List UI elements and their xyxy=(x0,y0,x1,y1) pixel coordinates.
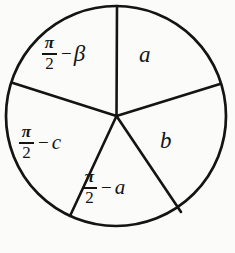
sector-label-pi-over-2-minus-a: π 2 − a xyxy=(82,169,125,206)
fraction-denominator: 2 xyxy=(44,55,55,73)
minus-operator: − xyxy=(97,178,113,197)
sector-label-pi-over-2-minus-c: π 2 − c xyxy=(19,124,61,161)
fraction-denominator: 2 xyxy=(84,189,95,207)
fraction-numerator: π xyxy=(84,169,95,187)
minus-operator: − xyxy=(34,133,50,152)
operand-c: c xyxy=(50,132,61,153)
fraction-numerator: π xyxy=(21,124,32,142)
operand-beta: β xyxy=(73,42,85,65)
fraction-pi-over-2: π 2 xyxy=(42,35,57,72)
fraction-denominator: 2 xyxy=(21,144,32,162)
fraction-pi-over-2: π 2 xyxy=(82,169,97,206)
operand-a: a xyxy=(113,177,126,198)
fraction-pi-over-2: π 2 xyxy=(19,124,34,161)
sector-label-a: a xyxy=(139,43,151,66)
minus-operator: − xyxy=(57,44,73,63)
fraction-numerator: π xyxy=(44,35,55,53)
spoke-upper-left xyxy=(13,83,117,116)
sector-label-pi-over-2-minus-beta: π 2 − β xyxy=(42,35,85,72)
sector-label-b: b xyxy=(160,129,172,152)
napier-circle-figure: a b π 2 − a π 2 − c π 2 − β xyxy=(0,0,235,253)
spoke-top xyxy=(117,6,118,116)
spoke-upper-right xyxy=(117,84,221,116)
